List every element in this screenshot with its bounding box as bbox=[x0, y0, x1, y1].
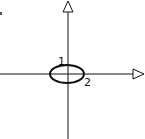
label-2: 2 bbox=[84, 76, 91, 89]
label-1: 1 bbox=[58, 55, 65, 68]
x-axis-arrowhead-icon bbox=[133, 69, 144, 79]
corner-mark bbox=[0, 12, 2, 15]
diagram-canvas: 1 2 bbox=[0, 0, 145, 139]
y-axis-arrowhead-icon bbox=[63, 1, 73, 12]
